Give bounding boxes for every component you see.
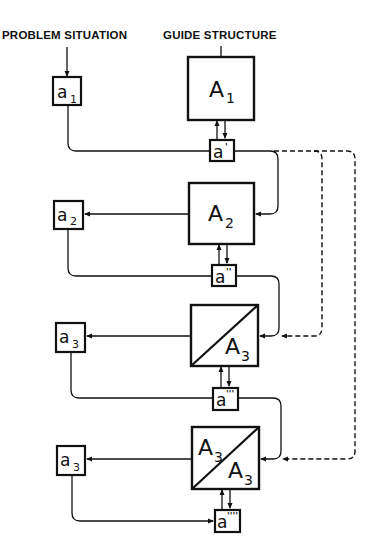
subscript: 3 [72, 338, 79, 351]
label: A [208, 201, 223, 226]
label: a [59, 327, 69, 347]
intermediate-box-a-triple-prime: a ''' [213, 388, 238, 410]
header-problem-situation: PROBLEM SITUATION [2, 29, 127, 41]
header-guide-structure: GUIDE STRUCTURE [163, 29, 277, 41]
subscript: 3 [241, 348, 250, 364]
bottom-subscript: 3 [244, 472, 253, 488]
label: a [213, 142, 223, 162]
label: a [217, 512, 227, 532]
subscript: 1 [70, 93, 77, 106]
subscript: 1 [226, 90, 235, 106]
label: a [60, 450, 70, 470]
subscript: 2 [70, 215, 77, 228]
label: A [209, 77, 224, 102]
label: a [57, 82, 67, 102]
intermediate-box-a-prime: a ' [210, 140, 234, 162]
label: a [57, 205, 67, 225]
subscript: 2 [225, 215, 234, 231]
dashed-feedback-to-A3-A3 [283, 151, 355, 459]
bottom-label: A [228, 458, 243, 483]
top-label: A [198, 435, 213, 460]
prime-mark: ''' [226, 389, 234, 399]
intermediate-box-a-double-prime: a '' [212, 265, 236, 287]
prime-mark: ' [225, 142, 228, 152]
top-subscript: 3 [214, 449, 223, 465]
prime-mark: '''' [227, 511, 238, 521]
label: a [215, 267, 225, 287]
problem-box-a2: a 2 [54, 201, 83, 229]
problem-box-a1: a 1 [53, 77, 81, 106]
label: a [216, 390, 226, 410]
guide-box-A2: A 2 [189, 183, 254, 244]
subscript: 3 [73, 461, 80, 474]
guide-box-A1: A 1 [188, 57, 254, 120]
intermediate-box-a-quadruple-prime: a '''' [215, 510, 240, 532]
prime-mark: '' [226, 267, 232, 277]
guide-structure-diagram: PROBLEM SITUATION GUIDE STRUCTURE a 1 A … [0, 0, 376, 557]
problem-box-a3: a 3 [56, 323, 85, 352]
dashed-feedback-to-A3 [274, 151, 322, 336]
guide-box-A3-A3-split: A 3 A 3 [192, 427, 259, 489]
label: A [225, 334, 240, 359]
guide-box-A3-split: A 3 [191, 305, 258, 366]
problem-box-a3-bottom: a 3 [57, 446, 85, 475]
